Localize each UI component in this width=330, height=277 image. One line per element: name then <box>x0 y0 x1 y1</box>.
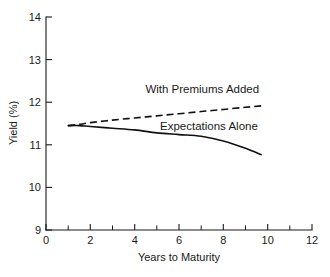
annotation-expectations-alone: Expectations Alone <box>160 120 258 132</box>
x-axis-title: Years to Maturity <box>138 251 221 263</box>
x-tick-label-12: 12 <box>306 234 318 246</box>
y-tick-label-13: 13 <box>29 54 41 66</box>
annotations-group: With Premiums Added Expectations Alone <box>145 83 259 132</box>
x-tick-label-0: 0 <box>43 234 49 246</box>
x-tick-label-6: 6 <box>176 234 182 246</box>
x-tick-label-8: 8 <box>220 234 226 246</box>
y-axis: 14 13 12 11 10 9 Yield (%) <box>7 11 52 236</box>
y-tick-label-12: 12 <box>29 96 41 108</box>
annotation-with-premiums-added: With Premiums Added <box>145 83 259 95</box>
x-axis: 0 2 4 6 8 10 12 Years to Maturity <box>43 224 318 263</box>
y-tick-label-14: 14 <box>29 11 41 23</box>
y-tick-label-9: 9 <box>35 224 41 236</box>
y-tick-label-10: 10 <box>29 181 41 193</box>
y-axis-title: Yield (%) <box>7 101 19 145</box>
chart-figure: 14 13 12 11 10 9 Yield (%) <box>0 0 330 277</box>
chart-canvas: 14 13 12 11 10 9 Yield (%) <box>0 0 330 277</box>
y-axis-tick-labels: 14 13 12 11 10 9 <box>29 11 41 236</box>
x-tick-label-4: 4 <box>132 234 138 246</box>
x-axis-tick-labels: 0 2 4 6 8 10 12 <box>43 234 318 246</box>
y-axis-ticks <box>46 17 52 230</box>
y-tick-label-11: 11 <box>30 139 41 151</box>
x-tick-label-2: 2 <box>87 234 93 246</box>
x-axis-ticks-major <box>46 224 312 230</box>
x-tick-label-10: 10 <box>262 234 274 246</box>
